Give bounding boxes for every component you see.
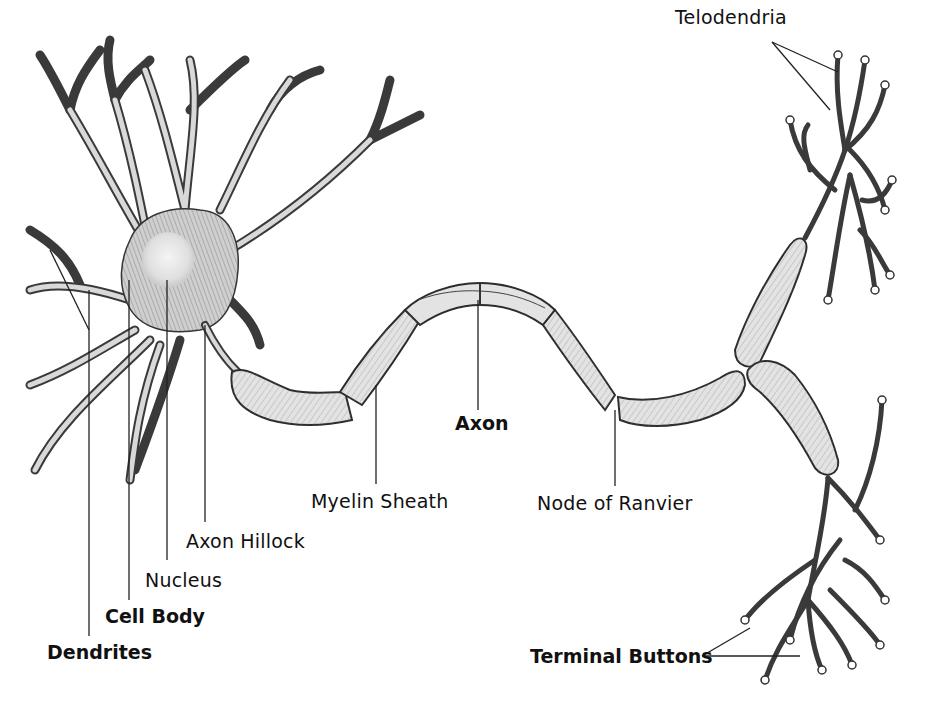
label-telodendria: Telodendria (675, 8, 787, 27)
label-terminal-buttons: Terminal Buttons (530, 647, 713, 666)
label-cell-body: Cell Body (105, 607, 205, 626)
nucleus-shape (142, 232, 194, 288)
label-dendrites: Dendrites (47, 643, 152, 662)
myelin-sheath-segments (231, 238, 838, 474)
neuron-diagram: Telodendria Axon Myelin Sheath Node of R… (0, 0, 926, 712)
label-axon: Axon (455, 414, 509, 433)
label-axon-hillock: Axon Hillock (186, 532, 305, 551)
label-node-of-ranvier: Node of Ranvier (537, 494, 692, 513)
label-myelin-sheath: Myelin Sheath (311, 492, 449, 511)
cell-body-shape (121, 209, 238, 332)
label-nucleus: Nucleus (145, 571, 222, 590)
telodendria-branches (790, 55, 892, 300)
